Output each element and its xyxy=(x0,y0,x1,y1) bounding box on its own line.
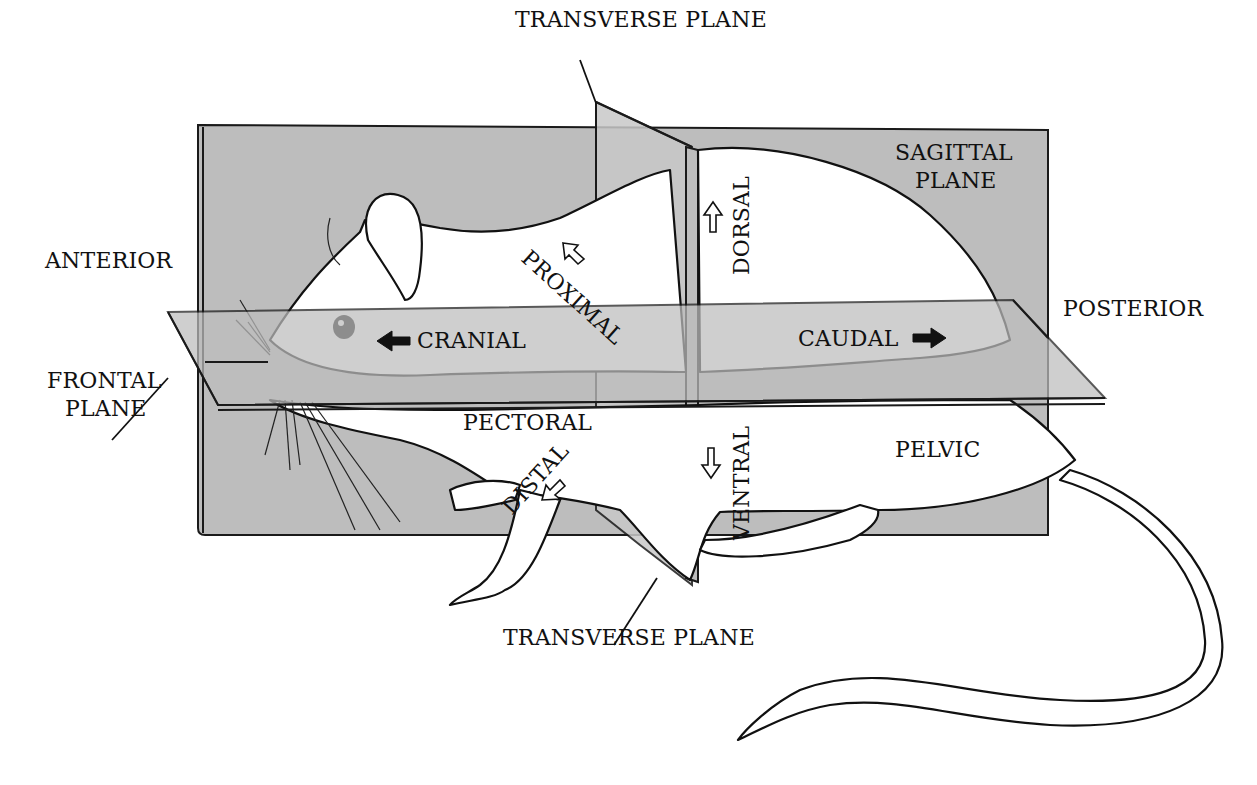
transverse-top-leader xyxy=(580,60,596,103)
frontal-plane-label-line2: PLANE xyxy=(65,396,147,421)
frontal-plane xyxy=(168,300,1105,410)
ventral-label: VENTRAL xyxy=(729,425,754,541)
sagittal-plane-label-line1: SAGITTAL xyxy=(895,140,1013,165)
cranial-label: CRANIAL xyxy=(417,328,526,353)
pectoral-label: PECTORAL xyxy=(463,410,592,435)
posterior-label: POSTERIOR xyxy=(1063,296,1205,321)
sagittal-plane-label-line2: PLANE xyxy=(915,168,997,193)
transverse-plane-top-label: TRANSVERSE PLANE xyxy=(515,7,767,32)
caudal-label: CAUDAL xyxy=(798,326,899,351)
frontal-plane-label-line1: FRONTAL xyxy=(47,368,162,393)
transverse-plane-bottom-label: TRANSVERSE PLANE xyxy=(503,625,755,650)
anterior-label: ANTERIOR xyxy=(44,248,174,273)
rat-anatomy-diagram: TRANSVERSE PLANE SAGITTAL PLANE ANTERIOR… xyxy=(0,0,1257,785)
dorsal-label: DORSAL xyxy=(729,176,754,275)
pelvic-label: PELVIC xyxy=(895,437,980,462)
